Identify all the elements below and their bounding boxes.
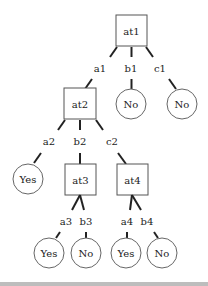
leaf-node-b1: No	[116, 89, 146, 119]
leaf-b3-label: No	[79, 248, 94, 259]
edge-b3-stub-top	[80, 195, 84, 210]
bottom-divider	[0, 282, 208, 286]
edge-label-b2: b2	[74, 136, 87, 147]
node-at3: at3	[65, 164, 96, 195]
edge-label-c1: c1	[154, 63, 166, 74]
leaf-node-a3: Yes	[34, 238, 64, 268]
edge-label-c2: c2	[106, 136, 118, 147]
leaf-a4-label: Yes	[117, 248, 135, 259]
edge-a3-stub-bottom	[56, 232, 60, 238]
leaf-node-c1: No	[167, 89, 197, 119]
leaf-a2-label: Yes	[19, 174, 37, 185]
node-at2-label: at2	[72, 99, 88, 110]
leaf-b1-label: No	[124, 99, 139, 110]
leaf-node-b4: No	[147, 238, 177, 268]
edge-b4-stub-bottom	[154, 232, 158, 238]
edge-c1-stub-top	[146, 47, 153, 57]
node-at1-label: at1	[123, 26, 139, 37]
edge-label-b3: b3	[80, 216, 93, 227]
edge-c2-stub-top	[96, 120, 103, 130]
edge-a1-stub-top	[110, 47, 117, 57]
leaf-node-a4: Yes	[111, 238, 141, 268]
edge-label-a2: a2	[43, 136, 55, 147]
node-at4-label: at4	[124, 175, 140, 186]
edge-a3-stub-top	[72, 195, 80, 210]
edge-label-a4: a4	[121, 216, 133, 227]
edge-a2-stub-top	[58, 120, 65, 130]
edge-label-b4: b4	[141, 216, 154, 227]
leaf-b4-label: No	[155, 248, 170, 259]
leaf-node-a2: Yes	[13, 164, 43, 194]
edge-c1-stub-bottom	[169, 79, 176, 89]
node-at3-label: at3	[72, 175, 88, 186]
edge-label-a3: a3	[60, 216, 72, 227]
decision-tree-diagram: at1 a1 b1 c1 at2 No No a2 b2 c2 Yes at3	[0, 0, 208, 286]
edge-label-a1: a1	[94, 63, 106, 74]
leaf-a3-label: Yes	[40, 248, 58, 259]
edge-b4-stub-top	[132, 195, 141, 210]
leaf-node-b3: No	[71, 238, 101, 268]
node-at2: at2	[64, 88, 96, 119]
leaf-c1-label: No	[175, 99, 190, 110]
edge-c2-stub-bottom	[118, 153, 126, 164]
edge-a4-stub-top	[130, 195, 132, 210]
edge-label-b1: b1	[125, 63, 138, 74]
node-at1: at1	[116, 15, 147, 46]
node-at4: at4	[117, 164, 148, 195]
edge-a2-stub-bottom	[34, 153, 41, 163]
